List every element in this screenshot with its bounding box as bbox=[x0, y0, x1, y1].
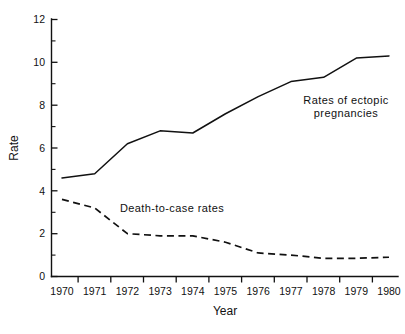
x-axis-title: Year bbox=[213, 304, 237, 318]
x-tick-label: 1973 bbox=[148, 285, 172, 297]
x-tick-label: 1980 bbox=[377, 285, 401, 297]
annotation-ectopic-line2: pregnancies bbox=[314, 107, 378, 119]
annotation-death-to-case: Death-to-case rates bbox=[120, 202, 224, 214]
caption-fragment bbox=[6, 318, 400, 332]
x-tick-label: 1979 bbox=[345, 285, 369, 297]
y-axis-title: Rate bbox=[7, 135, 21, 161]
x-tick-label: 1974 bbox=[181, 285, 205, 297]
y-tick-label: 8 bbox=[39, 99, 45, 111]
annotation-ectopic-line1: Rates of ectopic bbox=[303, 94, 388, 106]
x-tick-label: 1970 bbox=[50, 285, 74, 297]
line-chart: 0 2 4 6 8 10 12 1970 1971 1972 1973 bbox=[0, 0, 405, 334]
y-tick-label: 0 bbox=[39, 270, 45, 282]
x-tick-label: 1976 bbox=[247, 285, 271, 297]
x-tick-label: 1971 bbox=[83, 285, 107, 297]
axis-lines bbox=[52, 19, 399, 277]
x-tick-label: 1972 bbox=[116, 285, 140, 297]
chart-figure: 0 2 4 6 8 10 12 1970 1971 1972 1973 bbox=[0, 0, 405, 334]
y-tick-label: 4 bbox=[39, 185, 45, 197]
y-tick-label: 12 bbox=[33, 13, 45, 25]
y-tick-label: 6 bbox=[39, 142, 45, 154]
x-tick-label: 1975 bbox=[214, 285, 238, 297]
y-axis-major-ticks bbox=[52, 20, 58, 277]
y-axis-tick-labels: 0 2 4 6 8 10 12 bbox=[33, 13, 45, 282]
y-tick-label: 2 bbox=[39, 227, 45, 239]
x-tick-label: 1978 bbox=[312, 285, 336, 297]
x-axis-ticks bbox=[78, 277, 372, 283]
series-line-death-to-case-rates bbox=[62, 199, 389, 258]
x-axis-tick-labels: 1970 1971 1972 1973 1974 1975 1976 1977 … bbox=[50, 285, 401, 297]
x-tick-label: 1977 bbox=[279, 285, 303, 297]
y-tick-label: 10 bbox=[33, 56, 45, 68]
